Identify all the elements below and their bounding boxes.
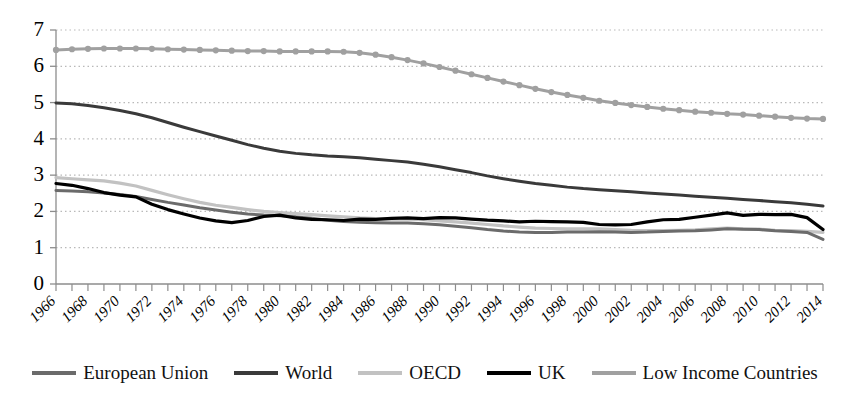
series-marker <box>197 47 203 53</box>
chart-legend: European UnionWorldOECDUKLow Income Coun… <box>0 356 850 390</box>
series-marker <box>516 82 522 88</box>
legend-line-icon <box>234 371 278 375</box>
series-marker <box>165 46 171 52</box>
series-marker <box>692 109 698 115</box>
series-marker <box>181 46 187 52</box>
series-marker <box>325 48 331 54</box>
series-marker <box>628 102 634 108</box>
series-marker <box>229 48 235 54</box>
series-marker <box>756 113 762 119</box>
series-marker <box>740 111 746 117</box>
legend-item[interactable]: Low Income Countries <box>592 362 818 384</box>
y-axis-tick-label: 3 <box>18 164 44 185</box>
legend-label: European Union <box>83 362 208 384</box>
series-marker <box>804 115 810 121</box>
legend-label: Low Income Countries <box>643 362 818 384</box>
series-marker <box>820 116 826 122</box>
legend-item[interactable]: OECD <box>358 362 461 384</box>
legend-line-icon <box>32 371 76 375</box>
series-marker <box>532 86 538 92</box>
series-marker <box>612 100 618 106</box>
series-marker <box>388 54 394 60</box>
series-marker <box>404 57 410 63</box>
legend-item[interactable]: European Union <box>32 362 208 384</box>
y-axis-tick-label: 4 <box>18 128 44 149</box>
series-marker <box>69 46 75 52</box>
series-marker <box>101 45 107 51</box>
series-marker <box>772 114 778 120</box>
series-marker <box>452 68 458 74</box>
series-marker <box>53 47 59 53</box>
y-axis-tick-label: 0 <box>18 273 44 294</box>
axes <box>50 30 823 284</box>
line-chart: 01234567 1966196819701972197419761978198… <box>0 0 850 404</box>
series-line <box>56 183 823 229</box>
series-marker <box>293 48 299 54</box>
series-marker <box>564 92 570 98</box>
legend-label: World <box>285 362 332 384</box>
legend-line-icon <box>592 371 636 375</box>
series-marker <box>213 47 219 53</box>
series-line <box>56 103 823 206</box>
series-marker <box>245 48 251 54</box>
y-axis-tick-label: 6 <box>18 55 44 76</box>
y-axis-tick-label: 2 <box>18 200 44 221</box>
series-marker <box>85 46 91 52</box>
y-axis-tick-label: 7 <box>18 19 44 40</box>
series-marker <box>133 45 139 51</box>
series-marker <box>309 48 315 54</box>
series-marker <box>500 78 506 84</box>
series-marker <box>676 107 682 113</box>
legend-line-icon <box>487 371 531 375</box>
legend-item[interactable]: World <box>234 362 332 384</box>
series-marker <box>357 50 363 56</box>
legend-line-icon <box>358 371 402 375</box>
legend-label: UK <box>538 362 565 384</box>
x-axis-ticks <box>56 284 823 291</box>
y-axis-tick-label: 1 <box>18 237 44 258</box>
data-series <box>53 45 826 239</box>
series-marker <box>436 64 442 70</box>
series-marker <box>149 46 155 52</box>
series-marker <box>596 98 602 104</box>
plot-area <box>0 0 850 404</box>
series-marker <box>261 48 267 54</box>
series-marker <box>468 71 474 77</box>
series-marker <box>644 104 650 110</box>
series-line <box>56 49 823 119</box>
series-marker <box>788 115 794 121</box>
legend-item[interactable]: UK <box>487 362 565 384</box>
series-marker <box>420 60 426 66</box>
series-marker <box>277 48 283 54</box>
series-marker <box>117 45 123 51</box>
series-marker <box>724 111 730 117</box>
series-marker <box>372 52 378 58</box>
series-marker <box>580 95 586 101</box>
series-marker <box>341 49 347 55</box>
series-marker <box>484 75 490 81</box>
legend-label: OECD <box>409 362 461 384</box>
series-marker <box>548 89 554 95</box>
series-marker <box>660 106 666 112</box>
y-axis-tick-label: 5 <box>18 92 44 113</box>
series-marker <box>708 110 714 116</box>
